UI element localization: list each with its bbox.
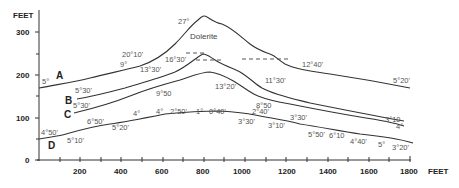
rock-label-dolerite: Dolerite (190, 32, 218, 41)
dip-angle: 3°10' (268, 121, 286, 130)
bed-label-C: C (64, 109, 71, 120)
dip-angle: 0°40' (209, 107, 227, 116)
dip-angle: 5°20' (112, 123, 130, 132)
dip-angle: 4° (396, 122, 403, 131)
x-tick-label: 400 (114, 167, 128, 176)
dip-angle: 3°30' (238, 117, 256, 126)
dip-angle: 5°20' (393, 76, 411, 85)
y-tick-label: 300 (16, 28, 30, 37)
x-tick-label: 1400 (319, 167, 337, 176)
dip-angle: 5°30' (73, 101, 91, 110)
dip-angle: 4° (133, 109, 140, 118)
y-tick-label: 100 (16, 114, 30, 123)
dip-angle: 13°30' (140, 65, 162, 74)
dip-angle: 5° (378, 140, 385, 149)
x-tick-label: 1800 (400, 167, 418, 176)
x-tick-label: 1000 (233, 167, 251, 176)
dip-angle: 4°40' (350, 137, 368, 146)
y-tick-label: 200 (16, 71, 30, 80)
dip-angle: 20°10' (122, 50, 144, 59)
x-tick-label: 1600 (360, 167, 378, 176)
dip-angle: 5°50' (308, 130, 326, 139)
bed-label-D: D (48, 140, 55, 151)
dip-angle: 4°50' (41, 128, 59, 137)
y-axis-label: FEET (13, 11, 34, 20)
x-tick-label: 800 (196, 167, 210, 176)
dip-angle: 3°30' (290, 113, 308, 122)
dip-angle: 4° (156, 107, 163, 116)
dip-angle: 3°20' (392, 143, 410, 152)
dip-angle: 27° (178, 17, 189, 26)
dip-angle: 16°30' (165, 55, 187, 64)
x-tick-label: 600 (155, 167, 169, 176)
x-tick-label: 1200 (278, 167, 296, 176)
dip-angle: 6°50' (87, 117, 105, 126)
x-ticks (60, 156, 410, 162)
x-tick-label: 200 (73, 167, 87, 176)
dip-angle: 5° (42, 77, 49, 86)
dip-angle: 5°30' (75, 86, 93, 95)
dip-angle: 12°40' (302, 60, 324, 69)
dip-angle: 9°50 (156, 89, 172, 98)
bed-label-A: A (56, 70, 63, 81)
bed-label-B: B (65, 95, 72, 106)
dip-angle: 1° (196, 107, 203, 116)
y-tick-label: 0 (25, 156, 30, 165)
dip-angle: 13°20' (215, 82, 237, 91)
geologic-profile-diagram: FEET 300 200 100 0 200 400 600 800 1000 … (0, 0, 459, 188)
dip-angle: 5°10' (67, 136, 85, 145)
dip-angle: 6°10 (329, 131, 345, 140)
dip-angle: 11°30' (265, 76, 286, 85)
dip-angle: 2°50' (170, 107, 188, 116)
bed-A-curve (39, 16, 410, 88)
x-axis-label: FEET (428, 167, 449, 176)
dip-angle: 9° (120, 60, 127, 69)
dip-angle: 2°40' (252, 107, 270, 116)
